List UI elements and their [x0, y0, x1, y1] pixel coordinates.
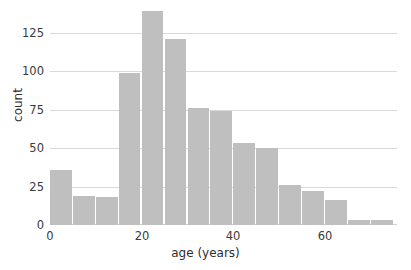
- ytick-label-125: 125: [0, 27, 44, 39]
- histogram-figure: 0 25 50 75 100 125 0 20 40 60 age (years…: [0, 0, 411, 270]
- histogram-bar: [210, 111, 232, 225]
- xtick-label-20: 20: [122, 230, 162, 242]
- xtick-label-60: 60: [305, 230, 345, 242]
- histogram-bar: [165, 39, 187, 225]
- gridline-125: [50, 33, 397, 34]
- gridline-100: [50, 71, 397, 72]
- histogram-bar: [50, 170, 72, 225]
- histogram-bar: [119, 73, 141, 225]
- ytick-label-50: 50: [0, 142, 44, 154]
- xtick-label-0: 0: [30, 230, 70, 242]
- x-axis-label: age (years): [0, 246, 411, 260]
- histogram-bar: [188, 108, 210, 225]
- histogram-bar: [256, 148, 278, 225]
- histogram-bar: [233, 143, 255, 225]
- histogram-bar: [279, 185, 301, 225]
- histogram-bar: [325, 200, 347, 225]
- plot-area: [50, 8, 397, 225]
- ytick-label-25: 25: [0, 181, 44, 193]
- histogram-bar: [96, 197, 118, 225]
- histogram-bar: [142, 11, 164, 225]
- histogram-bar: [371, 220, 393, 225]
- histogram-bar: [302, 191, 324, 225]
- histogram-bar: [73, 196, 95, 225]
- y-axis-label: count: [11, 75, 25, 135]
- histogram-bar: [348, 220, 370, 225]
- xtick-label-40: 40: [213, 230, 253, 242]
